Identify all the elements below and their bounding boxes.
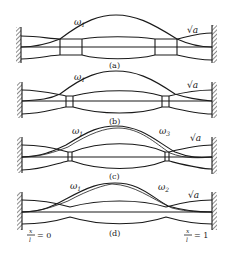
- caption-b: (b): [109, 117, 120, 126]
- right-wall-d: [212, 192, 217, 230]
- left-wall-d: [17, 192, 22, 230]
- svg-text:x: x: [29, 227, 33, 234]
- upper-outline-d: [22, 200, 212, 207]
- upper-outline-a: [21, 33, 212, 39]
- sqrt-label-a: √a: [187, 25, 198, 35]
- panel-c: ω1 ω3 √a (c): [17, 126, 217, 181]
- panel-a: ω1 √a (a): [16, 15, 217, 70]
- axis-label-left: x l = 0: [27, 227, 51, 243]
- left-wall-c: [17, 137, 22, 173]
- svg-text:= 1: = 1: [194, 231, 208, 240]
- upper-outline-b: [22, 90, 212, 96]
- caption-d: (d): [109, 229, 120, 238]
- left-wall-a: [16, 27, 21, 63]
- lower-outline-b: [22, 107, 212, 114]
- svg-text:l: l: [29, 236, 31, 243]
- omega1-label-d: ω1: [70, 181, 81, 192]
- omega3-label-c: ω3: [159, 126, 170, 137]
- omega3-curve-c: [22, 128, 212, 158]
- svg-text:x: x: [186, 227, 190, 234]
- omega1-label-c: ω1: [72, 126, 83, 137]
- axis-label-right: x l = 1: [184, 227, 208, 243]
- right-wall-a: [212, 25, 217, 63]
- omega-curve-a: [21, 15, 212, 47]
- lower-outline-a: [21, 55, 212, 60]
- caption-a: (a): [109, 61, 120, 70]
- sqrt-label-d: √a: [188, 190, 199, 200]
- left-wall-b: [17, 82, 22, 118]
- omega2-curve-d: [22, 184, 212, 212]
- omega-label-a: ω1: [74, 17, 85, 28]
- omega-curve-b: [22, 71, 212, 101]
- lower-outline-d: [22, 217, 212, 224]
- svg-text:l: l: [186, 236, 188, 243]
- panel-b: ω1 √a (b): [17, 71, 217, 126]
- right-wall-c: [212, 137, 217, 174]
- upper-outline-c: [22, 144, 212, 152]
- right-wall-b: [212, 82, 217, 118]
- omega-label-b: ω1: [74, 72, 85, 83]
- sqrt-label-b: √a: [187, 80, 198, 90]
- lower-outline-c: [22, 161, 212, 170]
- omega2-label-d: ω2: [158, 182, 169, 193]
- sqrt-label-c: √a: [190, 133, 201, 143]
- svg-text:= 0: = 0: [37, 231, 51, 240]
- caption-c: (c): [109, 172, 120, 181]
- panel-d: ω1 ω2 √a (d) x l = 0 x l = 1: [17, 181, 217, 243]
- mode-shape-diagram: ω1 √a (a) ω1 √a (b) ω1: [0, 0, 233, 253]
